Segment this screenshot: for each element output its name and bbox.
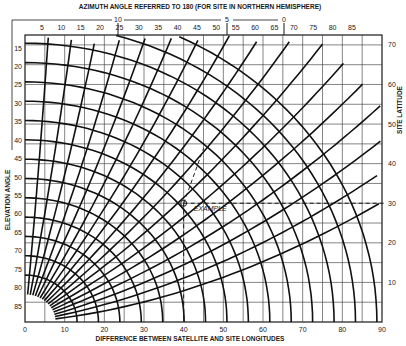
left-tick-label: 15 [14, 45, 22, 52]
top-tick-label: 40 [174, 24, 182, 31]
top-tick-label: 20 [96, 24, 104, 31]
left-tick-label: 60 [14, 210, 22, 217]
x-tick-label: 70 [299, 326, 307, 333]
left-tick-label: 75 [14, 266, 22, 273]
example-annotation: EXAMPLE [181, 148, 386, 322]
top-tick-label: 85 [348, 24, 356, 31]
bracket-tick-label: 10 [114, 16, 122, 23]
left-tick-label: 85 [14, 303, 22, 310]
left-tick-label: 20 [14, 63, 22, 70]
x-tick-label: 80 [338, 326, 346, 333]
x-tick-label: 40 [180, 326, 188, 333]
right-tick-label: 10 [388, 279, 396, 286]
x-tick-label: 60 [259, 326, 267, 333]
x-tick-label: 0 [23, 326, 27, 333]
x-tick-label: 30 [140, 326, 148, 333]
left-tick-label: 35 [14, 118, 22, 125]
x-axis-label: DIFFERENCE BETWEEN SATELLITE AND SITE LO… [96, 335, 286, 342]
top-tick-label: 50 [212, 24, 220, 31]
x-tick-label: 90 [378, 326, 386, 333]
right-tick-label: 70 [388, 41, 396, 48]
left-axis-label: ELEVATION ANGLE [4, 169, 11, 230]
top-tick-label: 25 [116, 24, 124, 31]
left-tick-label: 80 [14, 284, 22, 291]
left-tick-label: 65 [14, 229, 22, 236]
bracket-tick-label: 5 [225, 16, 229, 23]
left-tick-label: 55 [14, 192, 22, 199]
left-tick-label: 45 [14, 155, 22, 162]
example-label: EXAMPLE [194, 205, 227, 212]
left-tick-label: 50 [14, 174, 22, 181]
left-tick-label: 70 [14, 247, 22, 254]
left-tick-label: 30 [14, 100, 22, 107]
top-tick-label: 15 [77, 24, 85, 31]
left-tick-label: 25 [14, 81, 22, 88]
top-tick-label: 5 [40, 24, 44, 31]
top-tick-label: 30 [135, 24, 143, 31]
chart-title: AZIMUTH ANGLE REFERRED TO 180 (FOR SITE … [79, 3, 321, 11]
contour-curves [25, 36, 380, 323]
top-tick-label: 65 [271, 24, 279, 31]
bracket-tick-label: 0 [282, 16, 286, 23]
top-tick-label: 75 [309, 24, 317, 31]
right-tick-label: 60 [388, 81, 396, 88]
chart-container: AZIMUTH ANGLE REFERRED TO 180 (FOR SITE … [0, 0, 406, 346]
x-tick-label: 10 [61, 326, 69, 333]
left-tick-label: 40 [14, 137, 22, 144]
chart-svg: AZIMUTH ANGLE REFERRED TO 180 (FOR SITE … [0, 0, 406, 346]
top-tick-label: 45 [193, 24, 201, 31]
top-tick-label: 70 [290, 24, 298, 31]
x-tick-label: 20 [100, 326, 108, 333]
right-tick-label: 20 [388, 239, 396, 246]
top-tick-label: 10 [57, 24, 65, 31]
right-axis-label: SITE LATITUDE [396, 85, 403, 134]
top-tick-label: 35 [154, 24, 162, 31]
top-tick-label: 80 [329, 24, 337, 31]
x-tick-label: 50 [219, 326, 227, 333]
right-tick-label: 30 [388, 200, 396, 207]
right-tick-label: 50 [388, 121, 396, 128]
right-tick-label: 40 [388, 160, 396, 167]
top-tick-label: 55 [232, 24, 240, 31]
top-tick-label: 60 [251, 24, 259, 31]
